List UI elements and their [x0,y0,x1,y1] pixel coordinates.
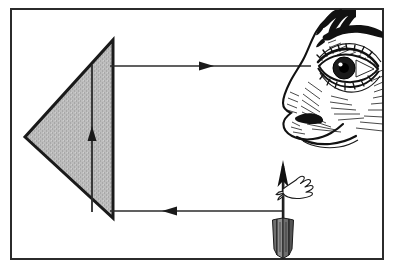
optics-diagram [0,0,396,272]
diagram-canvas [0,0,396,272]
eye-highlight [338,62,342,66]
arrow-fletching [273,218,294,259]
